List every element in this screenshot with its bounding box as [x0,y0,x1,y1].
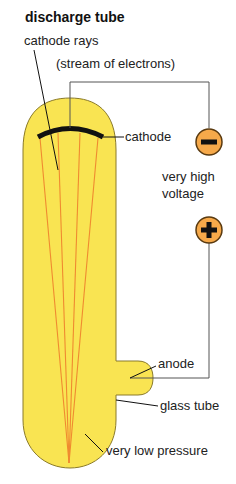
diagram-title: discharge tube [25,10,125,24]
label-cathode: cathode [125,130,171,144]
label-glass-tube: glass tube [160,399,219,413]
label-voltage-line2: voltage [162,187,204,201]
label-anode: anode [158,357,194,371]
negative-terminal-icon [196,129,222,155]
label-stream-of-electrons: (stream of electrons) [56,57,175,71]
label-voltage-line1: very high [162,170,215,184]
discharge-tube-diagram: discharge tube cathode rays (stream of e… [0,0,236,484]
positive-terminal-icon [196,217,222,243]
label-cathode-rays: cathode rays [24,34,98,48]
label-very-low-pressure: very low pressure [106,444,208,458]
glass-tube-body [23,98,153,468]
